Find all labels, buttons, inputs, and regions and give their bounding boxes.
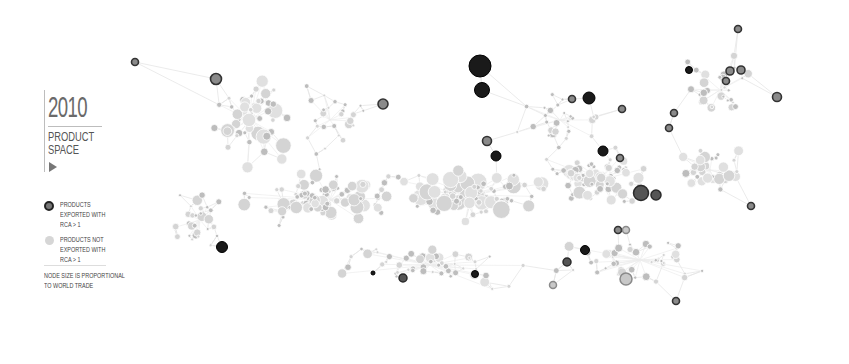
product-node[interactable] [634, 276, 637, 279]
product-node[interactable] [605, 182, 609, 186]
product-node[interactable] [730, 52, 737, 59]
product-node[interactable] [420, 268, 427, 275]
product-node[interactable] [340, 137, 346, 143]
product-node[interactable] [629, 198, 636, 205]
product-node[interactable] [353, 213, 364, 224]
product-node[interactable] [566, 120, 569, 123]
product-node[interactable] [343, 103, 347, 107]
product-node[interactable] [278, 207, 287, 216]
product-node[interactable] [428, 245, 437, 254]
play-triangle-icon[interactable] [49, 162, 57, 172]
product-node[interactable] [439, 271, 444, 276]
product-node[interactable] [522, 182, 528, 188]
product-node[interactable] [650, 261, 653, 264]
product-node[interactable] [264, 108, 271, 115]
product-node[interactable] [188, 234, 191, 237]
product-node[interactable] [238, 198, 251, 211]
product-node[interactable] [199, 192, 205, 198]
product-node[interactable] [363, 249, 373, 259]
product-node[interactable] [507, 284, 511, 288]
product-node[interactable] [426, 173, 439, 186]
exported-product-node[interactable] [491, 151, 501, 161]
product-node[interactable] [302, 191, 307, 196]
product-node[interactable] [585, 169, 593, 177]
product-node[interactable] [550, 93, 554, 97]
product-node[interactable] [569, 115, 572, 118]
product-node[interactable] [553, 268, 559, 274]
product-node[interactable] [613, 145, 618, 150]
product-node[interactable] [235, 134, 239, 138]
product-node[interactable] [589, 260, 594, 265]
product-node[interactable] [703, 173, 713, 183]
product-node[interactable] [672, 250, 680, 258]
exported-product-node[interactable] [371, 271, 375, 275]
exported-product-node[interactable] [563, 258, 571, 266]
exported-product-node[interactable] [773, 93, 782, 102]
product-node[interactable] [256, 75, 268, 87]
exported-product-node[interactable] [735, 26, 742, 33]
product-node[interactable] [306, 136, 310, 140]
exported-product-node[interactable] [399, 274, 407, 282]
product-node[interactable] [589, 162, 594, 167]
product-node[interactable] [242, 162, 253, 173]
product-node[interactable] [722, 95, 725, 98]
product-node[interactable] [230, 105, 234, 109]
product-node[interactable] [681, 274, 687, 280]
product-node[interactable] [547, 107, 553, 113]
product-node[interactable] [615, 244, 623, 252]
product-node[interactable] [563, 112, 566, 115]
product-node[interactable] [417, 174, 421, 178]
product-node[interactable] [572, 268, 575, 271]
product-node[interactable] [327, 106, 330, 109]
product-node[interactable] [701, 269, 704, 272]
product-node[interactable] [622, 168, 631, 177]
product-node[interactable] [516, 130, 519, 133]
exported-product-node[interactable] [748, 203, 755, 210]
product-node[interactable] [374, 193, 380, 199]
product-node[interactable] [489, 186, 494, 191]
product-node[interactable] [325, 201, 330, 206]
product-node[interactable] [271, 118, 276, 123]
product-node[interactable] [679, 152, 688, 161]
product-node[interactable] [462, 267, 465, 270]
product-node[interactable] [602, 250, 611, 259]
product-node[interactable] [337, 269, 346, 278]
product-node[interactable] [470, 212, 476, 218]
product-node[interactable] [275, 188, 279, 192]
product-node[interactable] [179, 194, 182, 197]
product-node[interactable] [592, 115, 596, 119]
product-node[interactable] [385, 260, 388, 263]
exported-product-node[interactable] [132, 59, 139, 66]
product-node[interactable] [223, 127, 232, 136]
product-node[interactable] [718, 162, 728, 172]
product-node[interactable] [479, 210, 483, 214]
exported-product-node[interactable] [737, 66, 745, 74]
product-node[interactable] [283, 114, 291, 122]
product-node[interactable] [333, 100, 337, 104]
product-node[interactable] [545, 120, 549, 124]
product-node[interactable] [561, 98, 564, 101]
product-node[interactable] [430, 207, 436, 213]
product-node[interactable] [710, 105, 714, 109]
product-node[interactable] [493, 201, 511, 219]
exported-product-node[interactable] [673, 298, 680, 305]
product-node[interactable] [732, 158, 736, 162]
product-node[interactable] [380, 262, 385, 267]
product-node[interactable] [347, 117, 354, 124]
product-node[interactable] [279, 187, 284, 192]
product-node[interactable] [597, 186, 604, 193]
exported-product-node[interactable] [666, 125, 673, 132]
product-node[interactable] [614, 167, 620, 173]
product-node[interactable] [295, 195, 300, 200]
product-node[interactable] [458, 195, 463, 200]
non-exported-nodes[interactable] [172, 52, 752, 290]
exported-product-node[interactable] [686, 67, 693, 74]
product-node[interactable] [208, 208, 213, 213]
product-node[interactable] [484, 209, 489, 214]
product-node[interactable] [597, 173, 606, 182]
product-node[interactable] [622, 199, 626, 203]
product-node[interactable] [261, 89, 271, 99]
product-node[interactable] [564, 242, 574, 252]
exported-product-node[interactable] [569, 96, 576, 103]
product-node[interactable] [194, 214, 197, 217]
